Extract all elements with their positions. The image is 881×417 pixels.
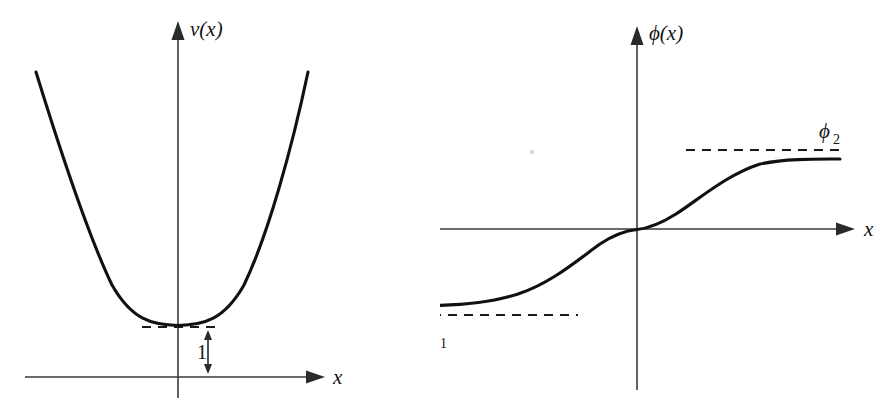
kink-curve <box>440 159 840 306</box>
phi1-subscript: 1 <box>440 336 447 351</box>
field-profile-panel: ϕ(x) x ϕ 1 ϕ 2 <box>440 0 881 417</box>
field-profile-plot-svg: ϕ(x) x ϕ 1 ϕ 2 <box>440 0 881 417</box>
y-axis-arrowhead-icon <box>631 26 644 45</box>
x-axis-arrowhead-icon <box>306 371 325 384</box>
potential-x-axis <box>25 371 325 384</box>
phi2-subscript: 2 <box>833 132 840 147</box>
measure-arrowhead-up-icon <box>204 330 212 340</box>
parabola-curve <box>36 72 308 326</box>
potential-plot-svg: v(x) x 1 <box>0 0 440 417</box>
potential-y-axis <box>172 21 185 398</box>
field-y-axis <box>631 26 644 390</box>
potential-x-axis-label: x <box>332 365 343 389</box>
scan-speck <box>530 150 534 154</box>
potential-y-axis-label: v(x) <box>190 17 223 41</box>
measure-arrowhead-down-icon <box>204 364 212 374</box>
unit-gap-label: 1 <box>197 341 207 363</box>
potential-panel: v(x) x 1 <box>0 0 440 417</box>
phi1-label: ϕ 1 <box>440 323 447 351</box>
figure-root: v(x) x 1 ϕ(x <box>0 0 881 417</box>
phi2-symbol: ϕ <box>819 119 830 143</box>
phi2-label: ϕ 2 <box>819 119 840 147</box>
y-axis-arrowhead-icon <box>172 21 185 40</box>
field-x-axis-label: x <box>863 217 874 241</box>
field-y-axis-label: ϕ(x) <box>649 21 683 45</box>
x-axis-arrowhead-icon <box>836 223 855 236</box>
